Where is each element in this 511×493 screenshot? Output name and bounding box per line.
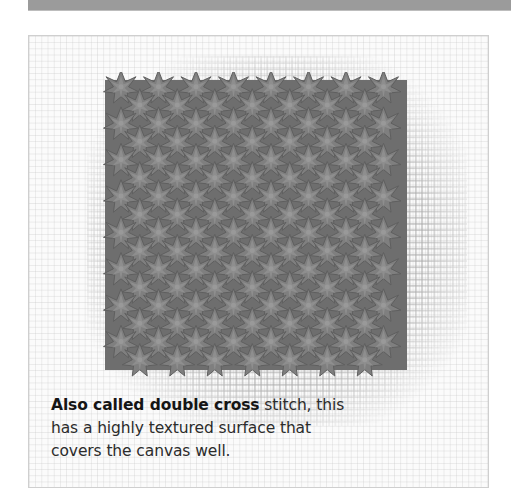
caption-line-3: covers the canvas well. (51, 440, 351, 463)
stitch-sample-image (101, 72, 411, 378)
caption-line-1: Also called double cross stitch, this (51, 394, 351, 417)
figure-frame: Also called double cross stitch, this ha… (28, 35, 489, 488)
caption-bold-term: Also called double cross (51, 396, 260, 414)
caption: Also called double cross stitch, this ha… (51, 394, 351, 463)
caption-line-1-rest: stitch, this (260, 396, 345, 414)
caption-line-2: has a highly textured surface that (51, 417, 351, 440)
header-bar (28, 0, 511, 11)
